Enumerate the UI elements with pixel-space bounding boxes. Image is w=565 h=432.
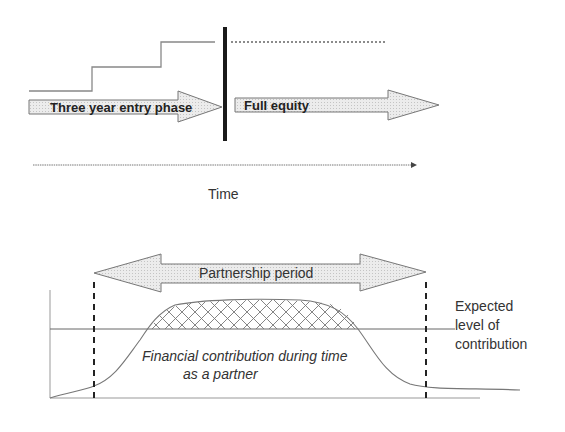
expected-label-line1: Expected bbox=[455, 298, 513, 314]
above-expectation-hatch bbox=[140, 290, 370, 335]
time-axis bbox=[33, 162, 417, 168]
transition-divider-bar bbox=[223, 27, 227, 141]
expected-label-line3: contribution bbox=[455, 336, 527, 352]
entry-phase-label: Three year entry phase bbox=[50, 100, 192, 115]
expected-label-line2: level of bbox=[455, 317, 499, 333]
time-axis-label: Time bbox=[208, 186, 239, 202]
equity-step-line bbox=[29, 42, 215, 91]
time-axis-arrowhead-icon bbox=[411, 162, 417, 168]
diagram-canvas: Three year entry phase Full equity Time … bbox=[0, 0, 565, 432]
curve-label-line1: Financial contribution during time bbox=[142, 348, 348, 364]
full-equity-label: Full equity bbox=[244, 98, 310, 113]
curve-label-line2: as a partner bbox=[183, 366, 259, 382]
partnership-period-label: Partnership period bbox=[199, 265, 313, 281]
